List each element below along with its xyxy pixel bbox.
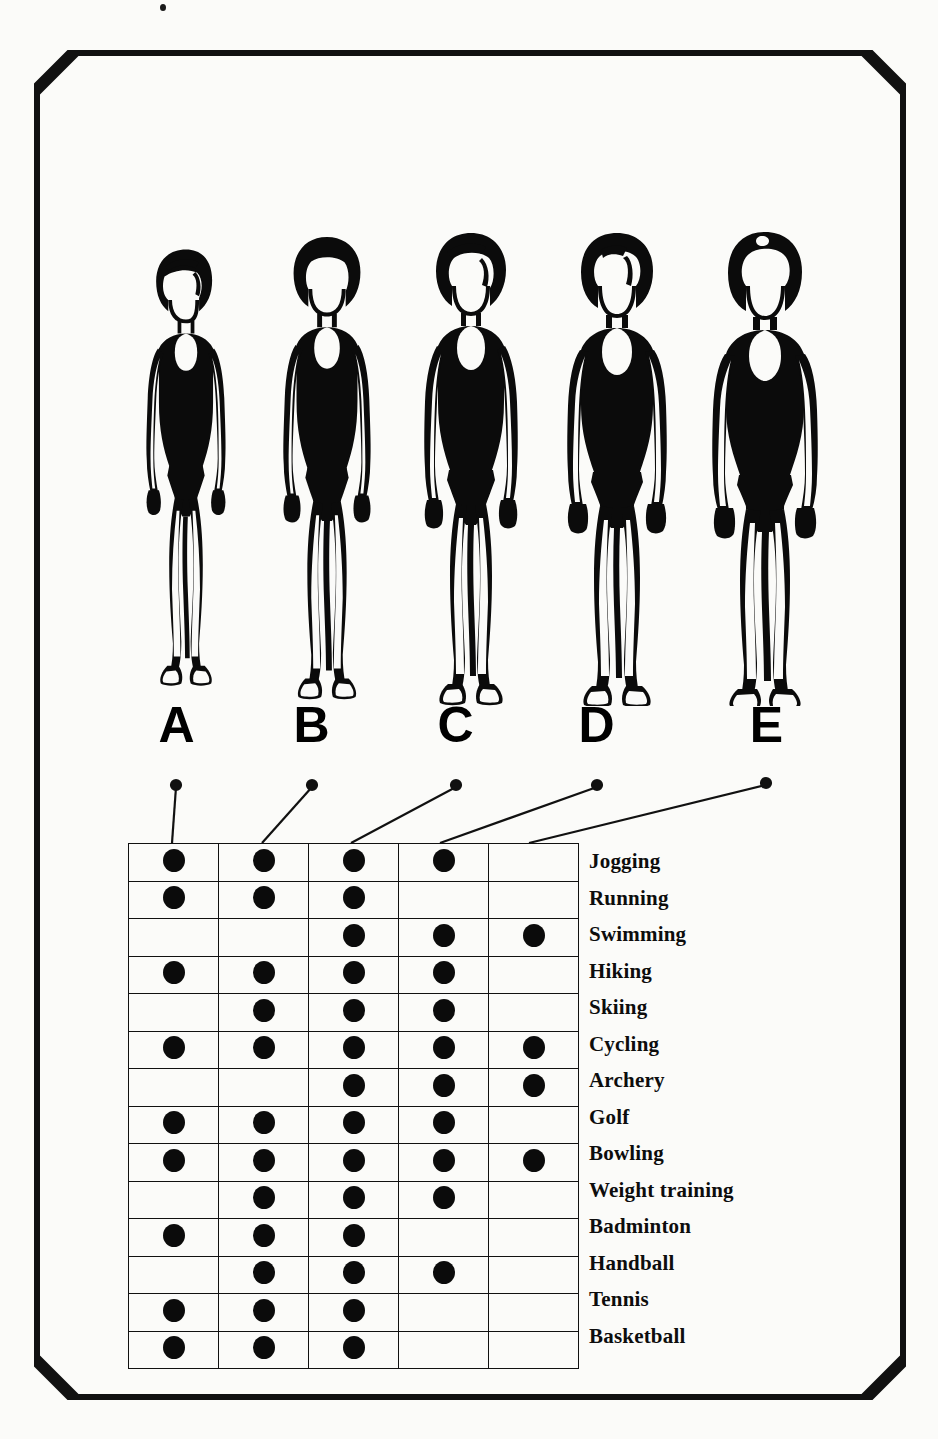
matrix-cell-e-9[interactable] — [489, 1181, 579, 1219]
suitability-dot — [253, 1261, 275, 1284]
matrix-row — [129, 844, 579, 882]
activity-label: Archery — [589, 1062, 899, 1099]
suitability-dot — [523, 924, 545, 947]
matrix-cell-c-11[interactable] — [309, 1256, 399, 1294]
suitability-dot — [343, 1261, 365, 1284]
matrix-cell-c-5[interactable] — [309, 1031, 399, 1069]
figure-label-e: E — [736, 700, 796, 750]
matrix-cell-e-8[interactable] — [489, 1144, 579, 1182]
matrix-cell-b-8[interactable] — [219, 1144, 309, 1182]
matrix-cell-d-3[interactable] — [399, 956, 489, 994]
body-figure-c-icon — [408, 228, 534, 706]
matrix-cell-a-8[interactable] — [129, 1144, 219, 1182]
matrix-cell-b-1[interactable] — [219, 881, 309, 919]
activity-label: Weight training — [589, 1172, 899, 1209]
matrix-cell-e-13[interactable] — [489, 1331, 579, 1369]
matrix-row — [129, 1106, 579, 1144]
leader-line-c — [351, 787, 456, 843]
figure-label-c: C — [425, 700, 485, 750]
matrix-cell-a-0[interactable] — [129, 844, 219, 882]
matrix-cell-b-2[interactable] — [219, 919, 309, 957]
body-figure-b — [268, 228, 386, 706]
activity-label: Cycling — [589, 1026, 899, 1063]
matrix-cell-c-10[interactable] — [309, 1219, 399, 1257]
matrix-cell-c-13[interactable] — [309, 1331, 399, 1369]
activity-label-column: JoggingRunningSwimmingHikingSkiingCyclin… — [589, 843, 899, 1354]
matrix-cell-d-5[interactable] — [399, 1031, 489, 1069]
matrix-cell-d-10[interactable] — [399, 1219, 489, 1257]
matrix-cell-c-12[interactable] — [309, 1294, 399, 1332]
matrix-cell-d-4[interactable] — [399, 994, 489, 1032]
matrix-cell-b-5[interactable] — [219, 1031, 309, 1069]
matrix-cell-b-7[interactable] — [219, 1106, 309, 1144]
matrix-cell-a-12[interactable] — [129, 1294, 219, 1332]
matrix-cell-e-6[interactable] — [489, 1069, 579, 1107]
matrix-cell-c-7[interactable] — [309, 1106, 399, 1144]
suitability-dot — [253, 1299, 275, 1322]
matrix-cell-a-6[interactable] — [129, 1069, 219, 1107]
matrix-cell-d-7[interactable] — [399, 1106, 489, 1144]
matrix-cell-c-3[interactable] — [309, 956, 399, 994]
matrix-cell-d-1[interactable] — [399, 881, 489, 919]
matrix-cell-e-0[interactable] — [489, 844, 579, 882]
suitability-dot — [343, 1036, 365, 1059]
matrix-row — [129, 1144, 579, 1182]
matrix-cell-a-1[interactable] — [129, 881, 219, 919]
matrix-cell-d-11[interactable] — [399, 1256, 489, 1294]
matrix-cell-e-4[interactable] — [489, 994, 579, 1032]
suitability-dot — [163, 1149, 185, 1172]
activity-label: Swimming — [589, 916, 899, 953]
matrix-cell-c-8[interactable] — [309, 1144, 399, 1182]
chart-page: A B C D E JoggingRunningSwimmingHikingSk… — [0, 0, 938, 1439]
matrix-cell-b-3[interactable] — [219, 956, 309, 994]
matrix-cell-b-13[interactable] — [219, 1331, 309, 1369]
matrix-cell-e-10[interactable] — [489, 1219, 579, 1257]
matrix-cell-e-7[interactable] — [489, 1106, 579, 1144]
matrix-cell-d-2[interactable] — [399, 919, 489, 957]
matrix-cell-a-4[interactable] — [129, 994, 219, 1032]
matrix-cell-b-4[interactable] — [219, 994, 309, 1032]
matrix-cell-d-8[interactable] — [399, 1144, 489, 1182]
matrix-cell-b-12[interactable] — [219, 1294, 309, 1332]
matrix-cell-b-0[interactable] — [219, 844, 309, 882]
matrix-cell-a-10[interactable] — [129, 1219, 219, 1257]
matrix-cell-c-2[interactable] — [309, 919, 399, 957]
matrix-cell-e-12[interactable] — [489, 1294, 579, 1332]
matrix-cell-c-0[interactable] — [309, 844, 399, 882]
matrix-cell-b-9[interactable] — [219, 1181, 309, 1219]
matrix-cell-e-2[interactable] — [489, 919, 579, 957]
matrix-cell-c-1[interactable] — [309, 881, 399, 919]
matrix-cell-b-6[interactable] — [219, 1069, 309, 1107]
matrix-cell-d-9[interactable] — [399, 1181, 489, 1219]
matrix-row — [129, 1331, 579, 1369]
matrix-cell-d-12[interactable] — [399, 1294, 489, 1332]
matrix-cell-c-4[interactable] — [309, 994, 399, 1032]
matrix-cell-a-9[interactable] — [129, 1181, 219, 1219]
matrix-cell-e-5[interactable] — [489, 1031, 579, 1069]
matrix-cell-e-3[interactable] — [489, 956, 579, 994]
suitability-dot — [253, 1036, 275, 1059]
matrix-cell-b-10[interactable] — [219, 1219, 309, 1257]
suitability-dot — [343, 1074, 365, 1097]
matrix-cell-a-2[interactable] — [129, 919, 219, 957]
body-figure-c — [408, 228, 534, 706]
matrix-cell-e-11[interactable] — [489, 1256, 579, 1294]
matrix-cell-e-1[interactable] — [489, 881, 579, 919]
matrix-cell-d-13[interactable] — [399, 1331, 489, 1369]
matrix-cell-a-7[interactable] — [129, 1106, 219, 1144]
matrix-cell-d-6[interactable] — [399, 1069, 489, 1107]
suitability-dot — [343, 886, 365, 909]
matrix-row — [129, 1294, 579, 1332]
body-figure-a — [130, 228, 242, 706]
matrix-cell-a-3[interactable] — [129, 956, 219, 994]
matrix-cell-c-9[interactable] — [309, 1181, 399, 1219]
matrix-cell-a-5[interactable] — [129, 1031, 219, 1069]
matrix-cell-a-13[interactable] — [129, 1331, 219, 1369]
matrix-cell-a-11[interactable] — [129, 1256, 219, 1294]
suitability-dot — [433, 1149, 455, 1172]
matrix-cell-b-11[interactable] — [219, 1256, 309, 1294]
matrix-cell-c-6[interactable] — [309, 1069, 399, 1107]
suitability-dot — [163, 1299, 185, 1322]
matrix-row — [129, 994, 579, 1032]
matrix-cell-d-0[interactable] — [399, 844, 489, 882]
